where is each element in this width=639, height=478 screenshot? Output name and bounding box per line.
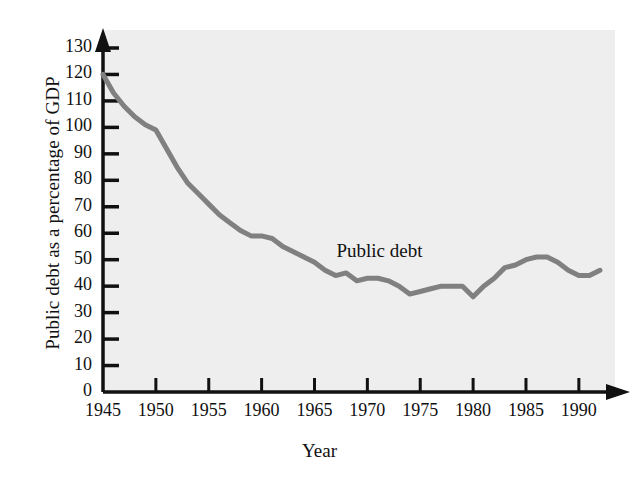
x-axis-tick-label: 1970 <box>337 400 397 421</box>
x-axis-tick-label: 1960 <box>232 400 292 421</box>
chart-page: 0102030405060708090100110120130 19451950… <box>0 0 639 478</box>
series-label-public-debt: Public debt <box>337 240 423 262</box>
x-axis-tick-label: 1955 <box>179 400 239 421</box>
x-axis-tick-label: 1965 <box>284 400 344 421</box>
data-line-public-debt <box>103 74 600 296</box>
x-axis-title: Year <box>0 440 639 462</box>
data-series-group <box>103 74 600 296</box>
x-axis-tick-label: 1950 <box>126 400 186 421</box>
x-axis-tick-label: 1990 <box>549 400 609 421</box>
x-axis-tick-label: 1975 <box>390 400 450 421</box>
y-axis-title: Public debt as a percentage of GDP <box>42 23 64 403</box>
x-axis-tick-label: 1980 <box>443 400 503 421</box>
axes <box>95 28 630 400</box>
x-axis-ticks <box>156 378 579 392</box>
x-axis-arrow-icon <box>606 384 630 400</box>
x-axis-tick-label: 1945 <box>73 400 133 421</box>
x-axis-tick-label: 1985 <box>496 400 556 421</box>
